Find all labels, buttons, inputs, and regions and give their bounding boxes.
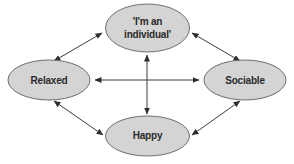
arrow-individual-relaxed <box>54 33 102 61</box>
node-sociable-label: Sociable <box>225 75 265 86</box>
node-individual: 'I'm an individual' <box>106 4 190 52</box>
node-relaxed-label: Relaxed <box>31 75 68 86</box>
node-happy-label: Happy <box>133 130 163 141</box>
node-relaxed: Relaxed <box>8 60 90 100</box>
node-happy: Happy <box>106 116 190 156</box>
arrow-sociable-happy <box>192 101 240 135</box>
arrow-individual-sociable <box>192 33 240 61</box>
relationship-diagram: 'I'm an individual' Relaxed Sociable Hap… <box>0 0 294 164</box>
node-individual-label-line1: 'I'm an <box>133 16 163 27</box>
arrow-relaxed-happy <box>54 101 103 135</box>
node-individual-label-line2: individual' <box>124 29 171 40</box>
node-sociable: Sociable <box>204 60 286 100</box>
